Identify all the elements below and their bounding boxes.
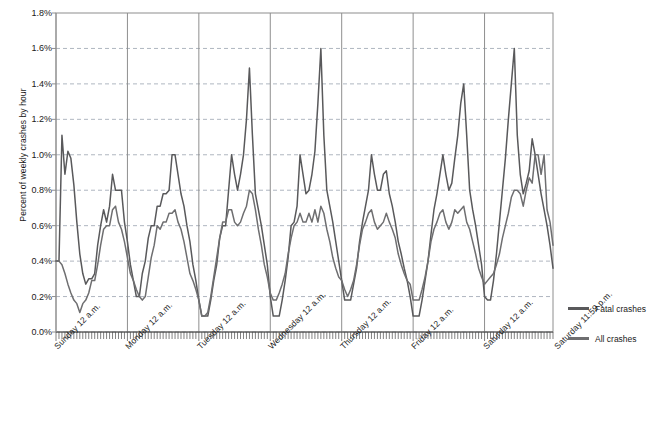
legend-item-fatal-crashes: Fatal crashes bbox=[568, 303, 646, 314]
legend-swatch-fatal-crashes bbox=[568, 307, 589, 310]
series-line-fatal-crashes bbox=[56, 48, 553, 316]
series-line-all-crashes bbox=[56, 155, 553, 316]
legend-label-fatal-crashes: Fatal crashes bbox=[595, 304, 646, 314]
legend-label-all-crashes: All crashes bbox=[595, 334, 637, 344]
plot-area bbox=[0, 0, 663, 436]
legend-swatch-all-crashes bbox=[568, 337, 589, 340]
legend-item-all-crashes: All crashes bbox=[568, 333, 637, 344]
plot-frame bbox=[56, 13, 553, 332]
chart-container: Percent of weekly crashes by hour 1.8% 1… bbox=[0, 0, 663, 436]
